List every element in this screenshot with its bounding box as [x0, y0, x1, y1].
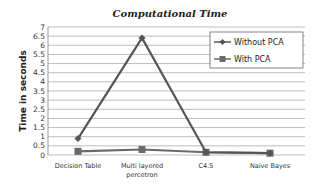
x-tick-label: Multi layered: [121, 162, 163, 170]
y-tick-label: 1.5: [33, 123, 45, 132]
y-tick-label: 2: [40, 114, 45, 123]
legend: Without PCA With PCA: [210, 32, 303, 68]
x-tick-label: percetron: [126, 171, 157, 179]
y-tick-label: 4.5: [33, 68, 45, 77]
y-axis-ticks: 00.511.522.533.544.555.566.57: [33, 23, 45, 160]
x-tick-label: C4.5: [199, 162, 214, 170]
y-tick-label: 7: [40, 23, 45, 32]
legend-label-with-pca: With PCA: [234, 55, 271, 64]
chart-title: Computational Time: [113, 8, 228, 19]
computational-time-chart: Computational Time 00.511.522.533.544.55…: [0, 0, 319, 192]
y-tick-label: 6: [40, 41, 45, 50]
y-tick-label: 3: [40, 96, 45, 105]
y-tick-label: 0: [40, 151, 45, 160]
y-tick-label: 0.5: [33, 141, 45, 150]
legend-label-without-pca: Without PCA: [234, 38, 284, 47]
square-marker-icon: [75, 148, 82, 155]
y-tick-label: 2.5: [33, 105, 45, 114]
x-tick-label: Naive Bayes: [250, 162, 291, 170]
y-tick-label: 5: [40, 59, 45, 68]
square-marker-icon: [139, 146, 146, 153]
y-tick-label: 4: [40, 77, 45, 86]
x-tick-label: Decision Table: [55, 162, 102, 170]
x-axis-ticks: Decision TableMulti layeredpercetronC4.5…: [55, 162, 291, 179]
y-tick-label: 5.5: [33, 50, 45, 59]
y-tick-label: 3.5: [33, 87, 45, 96]
square-marker-icon: [220, 56, 226, 62]
y-tick-label: 1: [40, 132, 45, 141]
y-axis-label: Time in seconds: [18, 50, 28, 132]
y-tick-label: 6.5: [33, 32, 45, 41]
